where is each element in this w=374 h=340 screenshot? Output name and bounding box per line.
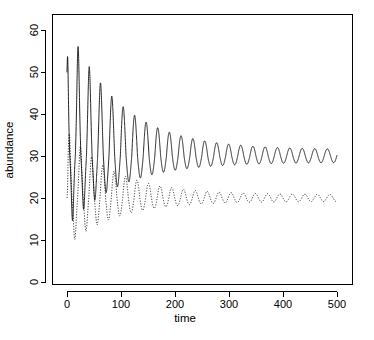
y-tick-label: 20 xyxy=(28,192,40,204)
y-tick-label: 10 xyxy=(28,234,40,246)
y-axis-ticks xyxy=(41,30,46,282)
series-predator-line xyxy=(67,134,337,240)
y-axis-title: abundance xyxy=(3,122,15,179)
y-tick-label: 30 xyxy=(28,150,40,162)
abundance-time-plot: 0100200300400500 0102030405060 time abun… xyxy=(0,0,374,340)
y-tick-label: 40 xyxy=(28,108,40,120)
x-axis-title: time xyxy=(174,312,196,324)
x-tick-label: 100 xyxy=(112,298,130,310)
x-axis-tick-labels: 0100200300400500 xyxy=(64,298,346,310)
chart-figure: 0100200300400500 0102030405060 time abun… xyxy=(0,0,374,340)
x-tick-label: 200 xyxy=(166,298,184,310)
y-tick-label: 60 xyxy=(28,24,40,36)
series-prey-line xyxy=(67,46,337,220)
x-axis-ticks xyxy=(67,292,337,297)
y-axis-tick-labels: 0102030405060 xyxy=(28,24,40,285)
x-tick-label: 500 xyxy=(328,298,346,310)
y-tick-label: 50 xyxy=(28,66,40,78)
x-tick-label: 300 xyxy=(220,298,238,310)
y-tick-label: 0 xyxy=(28,279,40,285)
x-tick-label: 0 xyxy=(64,298,70,310)
x-tick-label: 400 xyxy=(274,298,292,310)
